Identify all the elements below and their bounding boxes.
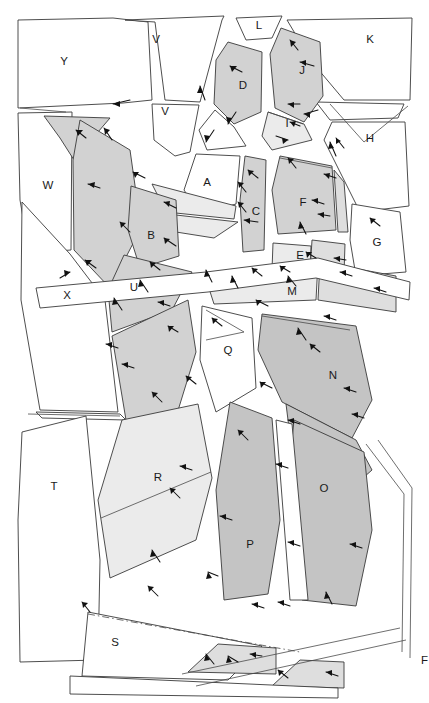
label-block-W: W: [43, 179, 54, 191]
block-C[interactable]: [240, 156, 266, 252]
label-block-H: H: [366, 132, 374, 144]
label-block-R: R: [154, 471, 162, 483]
fault-band-right2: [366, 444, 404, 652]
block-P[interactable]: [216, 402, 280, 600]
label-block-K: K: [366, 33, 374, 45]
label-block-U: U: [130, 281, 138, 293]
label-block-N: N: [329, 369, 337, 381]
label-block-C: C: [252, 205, 260, 217]
label-block-V2: V: [161, 105, 169, 117]
label-block-L: L: [256, 19, 263, 31]
label-block-F-edge: F: [421, 654, 428, 666]
block-K-sliver[interactable]: [316, 102, 404, 120]
label-block-E: E: [296, 249, 304, 261]
label-block-S: S: [111, 636, 119, 648]
label-block-G: G: [373, 236, 382, 248]
label-block-X: X: [63, 289, 71, 301]
label-block-T: T: [50, 480, 57, 492]
fault-band-right: [378, 440, 412, 658]
fault-block-map-figure: Y V V L K D J I H W A C F B E G X U M Q …: [0, 0, 429, 703]
label-block-O: O: [320, 482, 329, 494]
label-block-P: P: [246, 538, 254, 550]
label-block-V1: V: [152, 33, 160, 45]
block-F[interactable]: [272, 156, 336, 234]
block-Q[interactable]: [200, 306, 256, 412]
label-block-F: F: [299, 196, 306, 208]
label-block-Y: Y: [60, 55, 68, 67]
label-block-A: A: [203, 176, 211, 188]
label-block-I: I: [285, 117, 288, 129]
block-B[interactable]: [128, 186, 179, 268]
label-block-B: B: [147, 229, 155, 241]
label-block-D: D: [239, 79, 247, 91]
block-Y[interactable]: [18, 18, 152, 108]
label-block-Q: Q: [224, 344, 233, 356]
label-block-M: M: [287, 285, 297, 297]
map-canvas[interactable]: Y V V L K D J I H W A C F B E G X U M Q …: [0, 0, 429, 703]
fault-left-1: [20, 108, 66, 112]
block-R[interactable]: [98, 404, 212, 578]
block-V2[interactable]: [152, 104, 199, 156]
block-J[interactable]: [270, 28, 323, 122]
label-block-J: J: [299, 64, 305, 76]
